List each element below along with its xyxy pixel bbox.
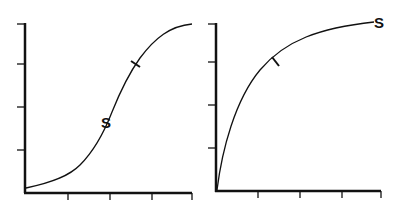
right-chart <box>208 22 381 198</box>
right-curve-marker <box>272 57 279 66</box>
figure: S S <box>0 0 402 219</box>
right-s-label: S <box>374 14 384 31</box>
left-s-label: S <box>101 114 111 131</box>
sigmoid-curve <box>26 24 192 188</box>
hyperbolic-curve <box>217 22 374 190</box>
left-curve-marker <box>131 61 140 67</box>
left-chart <box>17 23 192 200</box>
